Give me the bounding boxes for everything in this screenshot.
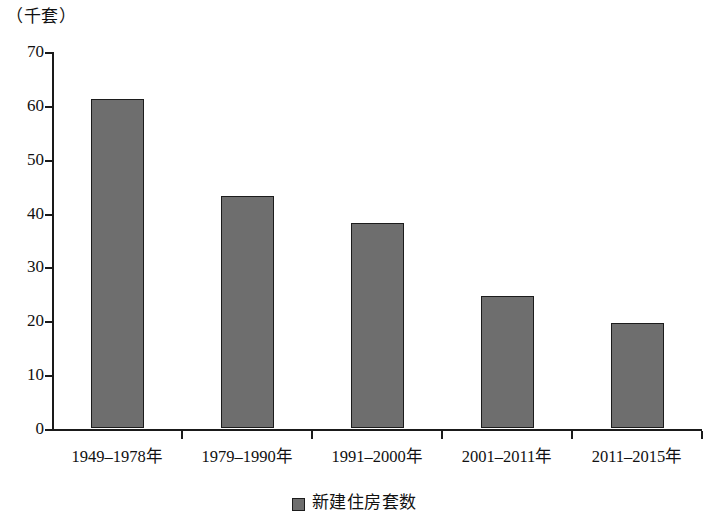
x-axis-tick (571, 431, 573, 439)
y-axis-tick (45, 160, 52, 162)
bar (91, 99, 144, 428)
x-axis-tick (701, 431, 703, 439)
bar (481, 296, 534, 428)
x-axis-category-label: 1979–1990年 (182, 446, 312, 468)
y-axis-tick-label: 50 (8, 151, 44, 168)
x-axis-line (52, 429, 702, 431)
y-axis-tick-label: 30 (8, 258, 44, 275)
x-axis-category-labels: 1949–1978年1979–1990年1991–2000年2001–2011年… (52, 446, 702, 472)
y-axis-tick (45, 52, 52, 54)
x-axis-category-label: 2011–2015年 (572, 446, 702, 468)
y-axis-unit-label: （千套） (6, 6, 76, 28)
x-axis-tick (311, 431, 313, 439)
y-axis-tick-label: 70 (8, 43, 44, 60)
legend-square-swatch-icon (292, 498, 305, 511)
x-axis-tick (441, 431, 443, 439)
y-axis-tick-label: 10 (8, 366, 44, 383)
y-axis-tick (45, 375, 52, 377)
y-axis-tick-label: 0 (8, 420, 44, 437)
bar (221, 196, 274, 428)
y-axis-tick (45, 321, 52, 323)
y-axis-tick-label: 60 (8, 97, 44, 114)
bar-chart: （千套） 010203040506070 1949–1978年1979–1990… (0, 0, 708, 522)
y-axis-tick-labels: 010203040506070 (8, 52, 44, 431)
y-axis-tick (45, 106, 52, 108)
legend-label: 新建住房套数 (312, 492, 417, 514)
chart-legend: 新建住房套数 (0, 492, 708, 514)
bar (611, 323, 664, 428)
y-axis-tick (45, 429, 52, 431)
x-axis-category-label: 1949–1978年 (52, 446, 182, 468)
bar (351, 223, 404, 428)
y-axis-tick (45, 267, 52, 269)
x-axis-tick (181, 431, 183, 439)
x-axis-category-label: 2001–2011年 (442, 446, 572, 468)
y-axis-line (52, 52, 54, 431)
x-axis-category-label: 1991–2000年 (312, 446, 442, 468)
y-axis-tick-label: 40 (8, 205, 44, 222)
y-axis-tick (45, 214, 52, 216)
plot-area: 010203040506070 (52, 52, 702, 430)
y-axis-tick-label: 20 (8, 312, 44, 329)
